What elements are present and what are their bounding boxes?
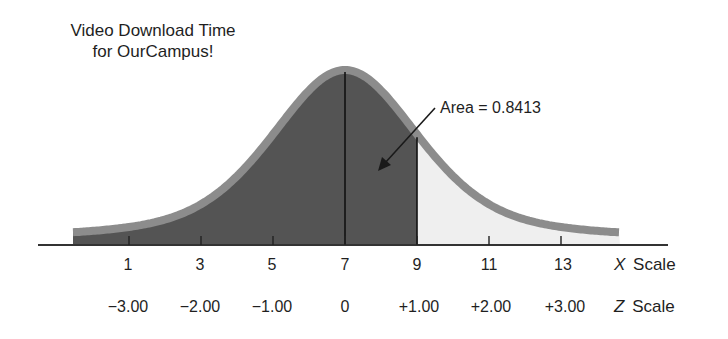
x-tick-label: 5 xyxy=(268,256,277,273)
x-tick-label: 7 xyxy=(341,256,350,273)
z-scale-letter: Z xyxy=(613,297,625,316)
z-tick-label: −1.00 xyxy=(252,298,293,315)
plot-area xyxy=(38,70,668,245)
normal-curve-chart: Area = 0.8413 1 3 5 7 9 11 13 X Scale −3… xyxy=(0,0,728,339)
x-scale-labels: 1 3 5 7 9 11 13 X Scale xyxy=(124,255,676,274)
z-scale-word: Scale xyxy=(632,297,675,316)
z-tick-label: 0 xyxy=(341,298,350,315)
z-tick-label: +2.00 xyxy=(471,298,512,315)
x-tick-label: 9 xyxy=(413,256,422,273)
z-scale-labels: −3.00 −2.00 −1.00 0 +1.00 +2.00 +3.00 Z … xyxy=(108,297,675,316)
x-tick-label: 1 xyxy=(124,256,133,273)
z-tick-label: −2.00 xyxy=(180,298,221,315)
z-tick-label: +1.00 xyxy=(399,298,440,315)
z-tick-label: +3.00 xyxy=(545,298,586,315)
x-scale-name: X Scale xyxy=(613,255,676,274)
shaded-area xyxy=(73,70,417,245)
x-scale-letter: X xyxy=(613,255,626,274)
z-scale-name: Z Scale xyxy=(613,297,675,316)
x-scale-word: Scale xyxy=(633,255,676,274)
x-tick-label: 13 xyxy=(554,256,572,273)
x-tick-label: 11 xyxy=(481,256,498,273)
z-tick-label: −3.00 xyxy=(108,298,149,315)
area-label: Area = 0.8413 xyxy=(440,99,541,116)
x-tick-label: 3 xyxy=(196,256,205,273)
